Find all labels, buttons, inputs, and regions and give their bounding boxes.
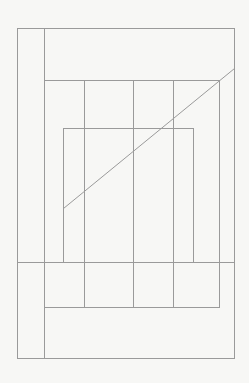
canvas-background: [0, 0, 249, 383]
drawing-canvas: [0, 0, 249, 383]
line-drawing-figure: [0, 0, 249, 383]
